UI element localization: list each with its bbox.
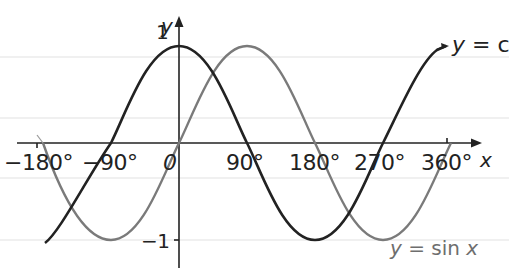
trig-graph	[0, 0, 509, 268]
x-tick-0: 0	[163, 150, 177, 175]
cos-curve	[45, 46, 446, 243]
gridlines	[0, 57, 509, 240]
x-axis-label: x	[480, 148, 492, 172]
y-tick-minus-1: −1	[141, 229, 169, 253]
x-tick-minus-180: −180°	[4, 150, 73, 175]
sin-label-mid: = sin	[402, 236, 466, 260]
cos-label-rest: = c	[465, 32, 509, 57]
x-tick-360: 360°	[421, 150, 472, 175]
x-tick-minus-90: −90°	[82, 150, 137, 175]
x-tick-180: 180°	[289, 150, 340, 175]
cos-curve-label: y = c	[452, 32, 509, 57]
sin-curve-label: y = sin x	[390, 236, 478, 260]
sin-label-y: y	[390, 236, 402, 260]
cos-label-y: y	[452, 32, 465, 57]
y-tick-1: 1	[156, 20, 168, 44]
sin-label-x: x	[466, 236, 478, 260]
x-tick-270: 270°	[354, 150, 405, 175]
x-tick-90: 90°	[226, 150, 264, 175]
